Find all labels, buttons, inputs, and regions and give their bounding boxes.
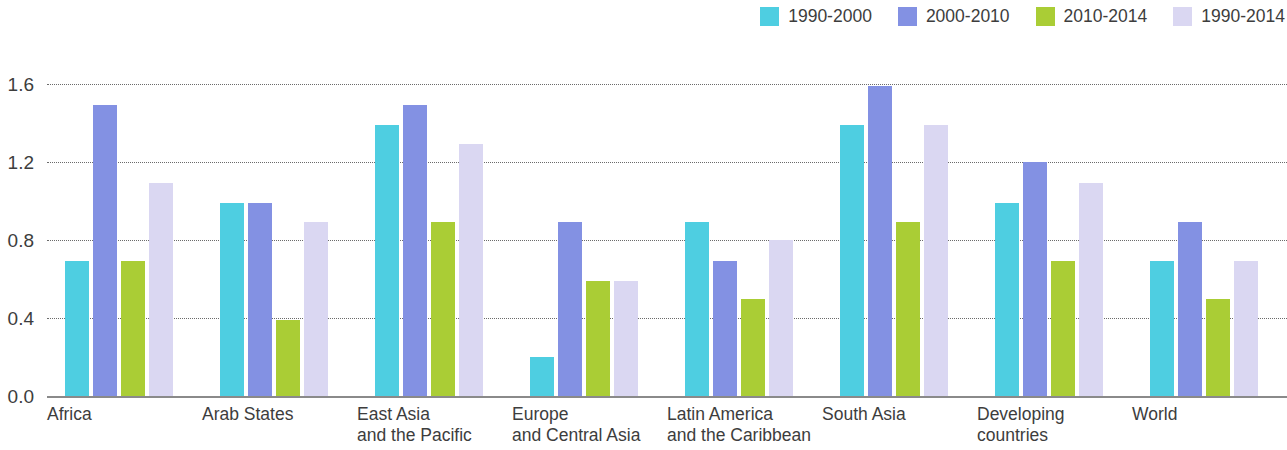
bar[interactable] [1079, 183, 1103, 396]
y-axis-tick-label: 0.8 [8, 231, 34, 250]
legend-swatch-icon [1036, 7, 1055, 26]
x-axis-category-label: Latin Americaand the Caribbean [667, 404, 822, 450]
bar[interactable] [558, 222, 582, 396]
bar[interactable] [1023, 162, 1047, 396]
legend-item-1990-2000[interactable]: 1990-2000 [760, 7, 872, 26]
y-axis-tick-label: 1.2 [8, 153, 34, 172]
legend-item-2000-2010[interactable]: 2000-2010 [898, 7, 1010, 26]
bar[interactable] [530, 357, 554, 396]
chart-legend: 1990-2000 2000-2010 2010-2014 1990-2014 [760, 7, 1285, 26]
bar[interactable] [741, 299, 765, 397]
x-axis-category-label: Africa [47, 404, 202, 450]
bar-group [1132, 84, 1287, 396]
bar[interactable] [586, 281, 610, 396]
bar[interactable] [304, 222, 328, 396]
bar[interactable] [276, 320, 300, 396]
legend-swatch-icon [1173, 7, 1192, 26]
legend-label: 2000-2010 [926, 7, 1010, 26]
bar[interactable] [220, 203, 244, 396]
bar[interactable] [1178, 222, 1202, 396]
bar[interactable] [713, 261, 737, 396]
bar[interactable] [896, 222, 920, 396]
bar-group [512, 84, 667, 396]
bar[interactable] [459, 144, 483, 396]
bar[interactable] [403, 105, 427, 396]
bar[interactable] [868, 86, 892, 396]
bar[interactable] [1150, 261, 1174, 396]
bar[interactable] [840, 125, 864, 396]
bar[interactable] [1051, 261, 1075, 396]
legend-swatch-icon [760, 7, 779, 26]
bar[interactable] [121, 261, 145, 396]
bar[interactable] [769, 240, 793, 396]
bar[interactable] [1234, 261, 1258, 396]
bar[interactable] [65, 261, 89, 396]
bar-groups [47, 84, 1287, 396]
bar[interactable] [685, 222, 709, 396]
bar-group [47, 84, 202, 396]
legend-label: 1990-2000 [788, 7, 872, 26]
x-axis-labels: AfricaArab StatesEast Asiaand the Pacifi… [47, 404, 1287, 450]
bar-chart: 1990-2000 2000-2010 2010-2014 1990-2014 … [0, 0, 1287, 450]
x-axis-category-label: East Asiaand the Pacific [357, 404, 512, 450]
x-axis-category-label: Arab States [202, 404, 357, 450]
legend-swatch-icon [898, 7, 917, 26]
x-axis-category-label: South Asia [822, 404, 977, 450]
bar[interactable] [375, 125, 399, 396]
bar-group [822, 84, 977, 396]
legend-label: 1990-2014 [1201, 7, 1285, 26]
y-axis-tick-label: 0.0 [8, 387, 34, 406]
x-axis-category-label: World [1132, 404, 1287, 450]
bar[interactable] [995, 203, 1019, 396]
bar[interactable] [614, 281, 638, 396]
x-axis-category-label: Europeand Central Asia [512, 404, 667, 450]
legend-label: 2010-2014 [1064, 7, 1148, 26]
x-axis-category-label: Developing countries [977, 404, 1132, 450]
bar-group [977, 84, 1132, 396]
legend-item-2010-2014[interactable]: 2010-2014 [1036, 7, 1148, 26]
y-axis-tick-label: 1.6 [8, 75, 34, 94]
bar[interactable] [248, 203, 272, 396]
bar-group [357, 84, 512, 396]
bar-group [202, 84, 357, 396]
plot-area: 0.00.40.81.21.6 [47, 84, 1287, 396]
bar[interactable] [924, 125, 948, 396]
y-axis-tick-label: 0.4 [8, 309, 34, 328]
bar[interactable] [93, 105, 117, 396]
bar[interactable] [1206, 299, 1230, 397]
legend-item-1990-2014[interactable]: 1990-2014 [1173, 7, 1285, 26]
axis-baseline [47, 396, 1287, 398]
bar[interactable] [149, 183, 173, 396]
bar[interactable] [431, 222, 455, 396]
bar-group [667, 84, 822, 396]
